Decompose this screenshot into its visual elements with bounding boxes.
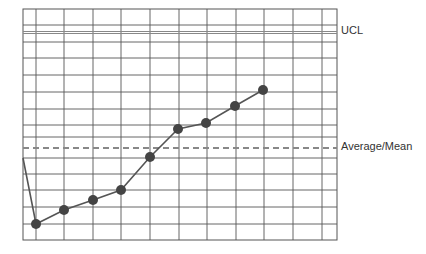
data-point [201, 118, 211, 128]
data-point [173, 124, 183, 134]
ucl-label: UCL [341, 24, 363, 36]
data-point [116, 185, 126, 195]
data-point [145, 152, 155, 162]
data-point [31, 219, 41, 229]
mean-label: Average/Mean [341, 140, 412, 152]
control-chart [0, 0, 426, 254]
data-point [230, 101, 240, 111]
data-point [88, 195, 98, 205]
data-point [59, 205, 69, 215]
data-line [23, 90, 263, 224]
data-point [258, 85, 268, 95]
